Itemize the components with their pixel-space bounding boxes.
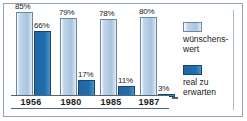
bar-group-1980: 79% 17% — [60, 12, 98, 97]
bar-value-label-dark-1980: 17% — [78, 70, 93, 79]
x-axis-end-stub — [172, 97, 178, 99]
bar-value-label-dark-1987: 3% — [158, 84, 169, 93]
bar-dark-1956 — [34, 31, 51, 97]
plot-area: 85% 66% 79% 17% 78% 11% 80% — [16, 12, 172, 97]
bar-value-label-light-1980: 79% — [59, 8, 74, 17]
bar-value-label-dark-1985: 11% — [118, 76, 133, 85]
chart-screenshot: 85% 66% 79% 17% 78% 11% 80% — [0, 0, 247, 121]
bar-group-1956: 85% 66% — [16, 12, 54, 97]
bar-value-label-light-1985: 78% — [99, 9, 114, 18]
legend-swatch-light-blue — [183, 22, 202, 32]
bar-light-1956 — [16, 12, 33, 97]
x-axis-tick-1985: 1985 — [92, 97, 130, 107]
bar-light-1985 — [100, 19, 117, 97]
bar-value-label-light-1956: 85% — [15, 2, 30, 11]
x-axis-tick-1980: 1980 — [52, 97, 90, 107]
bar-value-label-light-1987: 80% — [139, 7, 154, 16]
x-axis-tick-1956: 1956 — [12, 97, 50, 107]
legend-divider — [233, 10, 234, 110]
legend-swatch-dark-blue — [183, 65, 202, 75]
bar-group-1987: 80% 3% — [140, 12, 178, 97]
bar-value-label-dark-1956: 66% — [34, 21, 49, 30]
x-axis-label-strip: 1956 1980 1985 1987 — [11, 95, 169, 109]
bar-light-1980 — [60, 18, 77, 97]
bar-light-1987 — [140, 17, 157, 97]
x-axis-tick-1987: 1987 — [130, 97, 168, 107]
bar-group-1985: 78% 11% — [100, 12, 138, 97]
